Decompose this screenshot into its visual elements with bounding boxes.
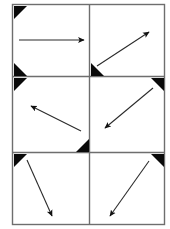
figure-panel-grid [0,0,170,229]
panel-grid-svg [0,0,170,229]
grid-outer-frame [13,5,165,225]
